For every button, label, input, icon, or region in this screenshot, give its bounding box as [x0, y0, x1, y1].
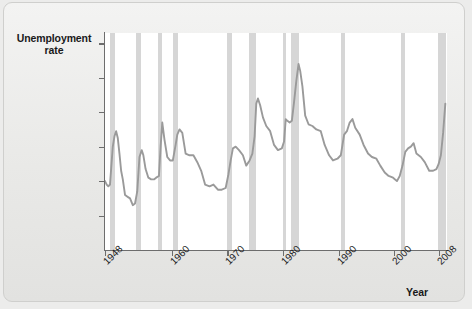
unemployment-line-path [105, 64, 445, 205]
y-axis-title-line2: rate [45, 44, 64, 56]
y-axis-title-line1: Unemployment [17, 32, 92, 44]
unemployment-line-series [105, 33, 447, 250]
y-tick-mark [99, 147, 105, 148]
y-axis-line [104, 32, 105, 251]
x-axis-title: Year [406, 286, 428, 298]
y-tick-mark [99, 216, 105, 217]
chart-figure: Unemployment rate 24681012% 194819601970… [0, 0, 472, 309]
y-tick-mark [99, 43, 105, 44]
y-tick-mark [99, 78, 105, 79]
y-axis-title: Unemployment rate [8, 33, 100, 56]
y-tick-mark [99, 112, 105, 113]
y-tick-mark [99, 181, 105, 182]
